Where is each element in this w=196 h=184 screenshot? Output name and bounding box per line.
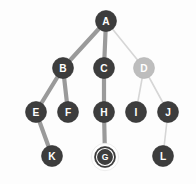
node-b-circle[interactable] [53,58,74,79]
node-j-circle[interactable] [158,102,179,123]
node-g[interactable]: G [91,143,118,170]
node-f-circle[interactable] [58,102,79,123]
node-i[interactable]: I [126,102,147,123]
node-h-circle[interactable] [94,102,115,123]
graph-svg: ABCDEFHIJKGL [0,0,196,184]
node-k-circle[interactable] [42,146,63,167]
node-i-circle[interactable] [126,102,147,123]
graph-diagram-canvas: ABCDEFHIJKGL [0,0,196,184]
node-e[interactable]: E [26,102,47,123]
node-e-circle[interactable] [26,102,47,123]
edge-layer [36,21,168,157]
node-f[interactable]: F [58,102,79,123]
node-c[interactable]: C [94,58,115,79]
node-j[interactable]: J [158,102,179,123]
node-g-circle[interactable] [95,147,116,168]
node-k[interactable]: K [42,146,63,167]
node-h[interactable]: H [94,102,115,123]
node-c-circle[interactable] [94,58,115,79]
node-a-circle[interactable] [96,11,117,32]
node-l[interactable]: L [153,146,174,167]
node-b[interactable]: B [53,58,74,79]
node-d-circle[interactable] [134,58,155,79]
node-d[interactable]: D [134,58,155,79]
node-l-circle[interactable] [153,146,174,167]
node-a[interactable]: A [96,11,117,32]
